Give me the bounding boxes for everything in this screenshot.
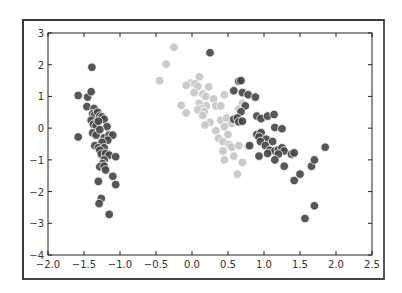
data-point-cluster-middle: [235, 141, 244, 150]
data-point-cluster-left: [101, 166, 110, 175]
data-point-cluster-middle: [230, 152, 239, 161]
x-tick-label: 1.0: [256, 259, 272, 270]
data-point-cluster-middle: [162, 60, 171, 69]
data-point-cluster-right: [310, 202, 319, 211]
data-point-cluster-middle: [182, 109, 191, 118]
data-point-cluster-left: [74, 91, 83, 100]
data-point-cluster-middle: [170, 43, 179, 52]
y-tick-label: −4: [29, 250, 44, 261]
x-tick-label: −1.5: [72, 259, 96, 270]
x-tick-label: 1.5: [292, 259, 308, 270]
data-point-cluster-right: [310, 156, 319, 165]
data-point-cluster-left: [88, 63, 97, 72]
data-point-cluster-right: [271, 156, 280, 165]
data-point-cluster-left: [109, 172, 118, 181]
data-point-cluster-left: [95, 199, 104, 208]
data-point-cluster-middle: [201, 92, 210, 101]
y-tick-label: 2: [38, 60, 44, 71]
x-tick-label: 0.0: [184, 259, 200, 270]
data-point-cluster-right: [296, 170, 305, 179]
data-point-cluster-right: [278, 125, 287, 134]
data-point-cluster-right: [230, 86, 239, 95]
data-point-cluster-right: [237, 76, 246, 85]
scatter-plot: −2.0−1.5−1.0−0.50.00.51.01.52.02.5 3210−…: [0, 0, 402, 293]
data-point-cluster-middle: [220, 91, 229, 100]
data-point-cluster-left: [96, 125, 105, 134]
data-point-cluster-right: [301, 214, 310, 223]
data-point-cluster-middle: [204, 83, 213, 92]
y-tick-label: −2: [29, 187, 44, 198]
y-tick-label: −1: [29, 155, 44, 166]
data-point-cluster-right: [290, 149, 299, 158]
data-point-cluster-middle: [199, 111, 208, 120]
data-point-cluster-right: [263, 149, 272, 158]
x-tick-label: 2.0: [328, 259, 344, 270]
data-point-cluster-right: [206, 48, 215, 57]
data-point-cluster-middle: [238, 158, 247, 167]
x-tick-label: 2.5: [364, 259, 380, 270]
data-point-cluster-left: [111, 152, 120, 161]
data-point-cluster-left: [94, 177, 103, 186]
data-point-cluster-right: [321, 143, 330, 152]
data-point-cluster-middle: [220, 122, 229, 131]
data-point-cluster-middle: [201, 121, 210, 130]
data-point-cluster-left: [74, 133, 83, 142]
y-tick-label: 3: [38, 28, 44, 39]
data-point-cluster-middle: [217, 102, 226, 111]
data-point-cluster-middle: [155, 76, 164, 85]
data-point-cluster-right: [245, 141, 254, 150]
data-point-cluster-middle: [220, 156, 229, 165]
data-point-cluster-left: [94, 117, 103, 126]
x-tick-label: −0.5: [144, 259, 168, 270]
data-point-cluster-left: [111, 180, 120, 189]
data-point-cluster-middle: [190, 88, 199, 97]
data-point-cluster-middle: [182, 81, 191, 90]
data-point-cluster-right: [251, 93, 260, 102]
data-point-cluster-left: [87, 87, 96, 96]
data-point-cluster-left: [105, 210, 114, 219]
data-point-cluster-middle: [233, 170, 242, 179]
data-point-cluster-middle: [219, 147, 228, 156]
x-tick-label: −1.0: [108, 259, 132, 270]
data-point-cluster-right: [255, 152, 264, 161]
y-tick-label: 1: [38, 91, 44, 102]
y-tick-label: 0: [38, 123, 44, 134]
x-tick-label: 0.5: [220, 259, 236, 270]
data-point-cluster-right: [270, 110, 279, 119]
data-point-cluster-right: [280, 162, 289, 171]
y-tick-label: −3: [29, 218, 44, 229]
data-point-cluster-right: [238, 117, 247, 126]
data-point-cluster-middle: [177, 101, 186, 110]
